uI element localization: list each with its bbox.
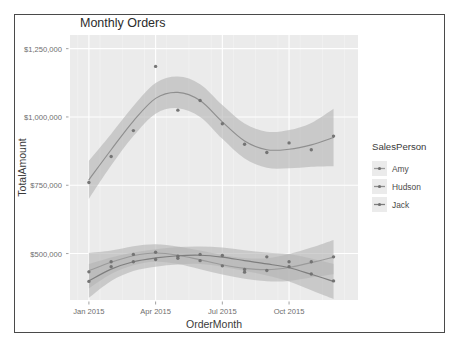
x-axis-title: OrderMonth bbox=[186, 318, 242, 330]
chart-title: Monthly Orders bbox=[80, 16, 165, 30]
legend-key-point bbox=[378, 185, 381, 188]
chart-screenshot: Monthly Orders$500,000$750,000$1,000,000… bbox=[0, 0, 459, 350]
x-axis-tick-label: Oct 2015 bbox=[274, 307, 305, 316]
data-point-hudson bbox=[221, 122, 224, 125]
data-point-jack bbox=[198, 253, 201, 256]
y-axis-tick-label: $500,000 bbox=[30, 250, 62, 259]
data-point-amy bbox=[287, 265, 290, 268]
data-point-amy bbox=[109, 260, 112, 263]
data-point-amy bbox=[265, 269, 268, 272]
data-point-hudson bbox=[132, 129, 135, 132]
data-point-amy bbox=[221, 264, 224, 267]
data-point-jack bbox=[265, 255, 268, 258]
y-axis-tick-label: $750,000 bbox=[30, 181, 62, 190]
data-point-hudson bbox=[310, 148, 313, 151]
data-point-hudson bbox=[109, 155, 112, 158]
data-point-jack bbox=[243, 270, 246, 273]
data-point-hudson bbox=[176, 108, 179, 111]
data-point-jack bbox=[87, 280, 90, 283]
data-point-jack bbox=[310, 272, 313, 275]
y-axis-tick-label: $1,000,000 bbox=[24, 113, 62, 122]
x-axis-tick-label: Jan 2015 bbox=[73, 307, 104, 316]
data-point-hudson bbox=[265, 151, 268, 154]
legend-title: SalesPerson bbox=[372, 141, 426, 152]
chart-svg: Monthly Orders$500,000$750,000$1,000,000… bbox=[0, 0, 459, 350]
data-point-jack bbox=[221, 254, 224, 257]
chart-canvas: Monthly Orders$500,000$750,000$1,000,000… bbox=[0, 0, 459, 350]
y-axis-title: TotalAmount bbox=[16, 138, 28, 196]
x-axis-tick-label: Apr 2015 bbox=[140, 307, 171, 316]
data-point-jack bbox=[109, 265, 112, 268]
data-point-jack bbox=[176, 255, 179, 258]
data-point-amy bbox=[132, 253, 135, 256]
legend-key-point bbox=[378, 167, 381, 170]
data-point-jack bbox=[154, 258, 157, 261]
legend-key-point bbox=[378, 203, 381, 206]
data-point-hudson bbox=[287, 141, 290, 144]
data-point-hudson bbox=[87, 181, 90, 184]
data-point-amy bbox=[154, 250, 157, 253]
y-axis-tick-label: $1,250,000 bbox=[24, 45, 62, 54]
data-point-hudson bbox=[154, 65, 157, 68]
data-point-amy bbox=[310, 260, 313, 263]
data-point-amy bbox=[332, 255, 335, 258]
data-point-hudson bbox=[198, 99, 201, 102]
legend-item-label: Hudson bbox=[392, 182, 421, 192]
data-point-jack bbox=[287, 260, 290, 263]
legend-item-label: Jack bbox=[392, 200, 410, 210]
x-axis-tick-label: Jul 2015 bbox=[208, 307, 237, 316]
data-point-jack bbox=[332, 279, 335, 282]
data-point-hudson bbox=[243, 143, 246, 146]
legend-item-label: Amy bbox=[392, 164, 410, 174]
data-point-amy bbox=[87, 270, 90, 273]
data-point-hudson bbox=[332, 134, 335, 137]
data-point-amy bbox=[198, 259, 201, 262]
data-point-jack bbox=[132, 260, 135, 263]
